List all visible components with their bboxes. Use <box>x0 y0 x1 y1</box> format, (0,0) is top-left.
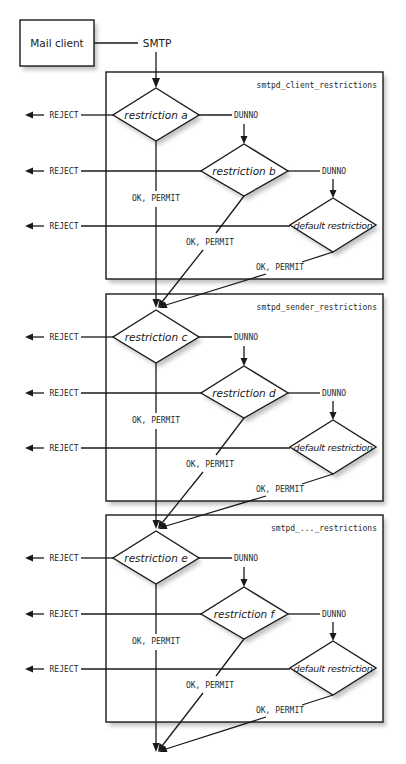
restriction-label: restriction c <box>125 331 188 343</box>
permit-label: OK, PERMIT <box>256 263 304 272</box>
restriction-label: default restriction <box>293 663 372 674</box>
arrow-left-icon <box>25 611 33 618</box>
arrow-left-icon <box>25 666 33 673</box>
arrow-left-icon <box>25 334 33 341</box>
permit-label: OK, PERMIT <box>186 681 234 690</box>
reject-label: REJECT <box>50 222 79 231</box>
dunno-label: DUNNO <box>234 333 258 342</box>
reject-label: REJECT <box>50 610 79 619</box>
panel-title: smtpd_..._restrictions <box>271 524 377 533</box>
arrow-left-icon <box>25 223 33 230</box>
arrow-left-icon <box>25 445 33 452</box>
smtp-label: SMTP <box>143 37 171 49</box>
mail-client-label: Mail client <box>30 37 84 49</box>
reject-label: REJECT <box>50 389 79 398</box>
permit-label: OK, PERMIT <box>132 416 180 425</box>
reject-label: REJECT <box>50 167 79 176</box>
panel-title: smtpd_sender_restrictions <box>257 303 378 312</box>
permit-label: OK, PERMIT <box>132 194 180 203</box>
restriction-label: default restriction <box>293 442 372 453</box>
reject-label: REJECT <box>50 444 79 453</box>
arrow-left-icon <box>25 112 33 119</box>
dunno-label: DUNNO <box>322 389 346 398</box>
reject-label: REJECT <box>50 111 79 120</box>
postfix-restriction-flow-diagram: Mail client SMTP smtpd_client_restrictio… <box>0 0 406 764</box>
restriction-label: restriction a <box>124 109 187 121</box>
restriction-label: restriction d <box>212 387 276 399</box>
dunno-label: DUNNO <box>234 111 258 120</box>
panel-title: smtpd_client_restrictions <box>257 81 378 90</box>
dunno-label: DUNNO <box>322 167 346 176</box>
arrow-left-icon <box>25 390 33 397</box>
permit-label: OK, PERMIT <box>256 706 304 715</box>
arrow-left-icon <box>25 168 33 175</box>
mail-client-node: Mail client <box>20 20 97 70</box>
reject-label: REJECT <box>50 665 79 674</box>
permit-label: OK, PERMIT <box>186 460 234 469</box>
permit-label: OK, PERMIT <box>256 485 304 494</box>
restriction-label: restriction e <box>124 552 187 564</box>
restriction-label: restriction b <box>212 165 276 177</box>
dunno-label: DUNNO <box>322 610 346 619</box>
reject-label: REJECT <box>50 554 79 563</box>
restriction-label: restriction f <box>214 608 277 620</box>
permit-label: OK, PERMIT <box>132 637 180 646</box>
reject-label: REJECT <box>50 333 79 342</box>
permit-label: OK, PERMIT <box>186 238 234 247</box>
arrow-left-icon <box>25 555 33 562</box>
dunno-label: DUNNO <box>234 554 258 563</box>
restriction-label: default restriction <box>293 220 372 231</box>
